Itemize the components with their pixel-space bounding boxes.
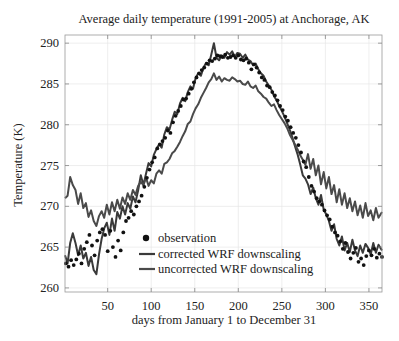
x-tick-labels: 50100150200250300350 <box>101 299 378 313</box>
observation-point <box>127 216 131 220</box>
y-tick-label: 265 <box>40 240 59 254</box>
observation-point <box>135 204 139 208</box>
temperature-chart: Average daily temperature (1991-2005) at… <box>0 0 399 341</box>
observation-point <box>320 203 324 207</box>
observation-point <box>297 143 301 147</box>
observation-point <box>64 262 68 266</box>
y-tick-label: 275 <box>40 159 59 173</box>
observation-point <box>333 231 337 235</box>
observation-point <box>153 156 157 160</box>
observation-point <box>289 125 293 129</box>
observation-point <box>192 80 196 84</box>
observation-point <box>195 76 199 80</box>
observation-point <box>103 233 107 237</box>
observation-point <box>111 245 115 249</box>
observation-point <box>161 139 165 143</box>
observation-point <box>148 168 152 172</box>
observation-point <box>163 136 167 140</box>
observation-point <box>331 225 335 229</box>
observation-point <box>255 66 259 70</box>
observation-point <box>250 67 254 71</box>
observation-point <box>93 253 97 257</box>
legend-observation-label: observation <box>158 231 217 245</box>
x-axis-label: days from January 1 to December 31 <box>132 313 317 327</box>
legend-uncorrected-label: uncorrected WRF downscaling <box>158 262 314 276</box>
x-tick-label: 300 <box>316 299 335 313</box>
observation-point <box>263 78 267 82</box>
observation-point <box>236 54 240 58</box>
observation-point <box>106 249 110 253</box>
observation-point <box>124 219 128 223</box>
observation-point <box>302 160 306 164</box>
observation-point <box>189 87 193 91</box>
observation-point <box>286 119 290 123</box>
y-axis-label: Temperature (K) <box>11 123 25 206</box>
observation-point <box>312 190 316 194</box>
x-tick-label: 200 <box>229 299 248 313</box>
observation-point <box>310 184 314 188</box>
observation-point <box>304 165 308 169</box>
observation-point <box>77 252 81 256</box>
observation-point <box>101 227 105 231</box>
observation-point <box>351 251 355 255</box>
observation-point <box>364 254 368 258</box>
observation-point <box>278 104 282 108</box>
observation-point <box>336 234 340 238</box>
observation-point <box>145 176 149 180</box>
observation-point <box>121 231 125 235</box>
observation-point <box>341 247 345 251</box>
x-tick-label: 250 <box>272 299 291 313</box>
observation-point <box>328 218 332 222</box>
observation-point <box>72 263 76 267</box>
observation-point <box>108 229 112 233</box>
series-layer <box>64 43 384 274</box>
y-tick-labels: 260265270275280285290 <box>40 36 59 295</box>
observation-point <box>129 209 133 213</box>
observation-point <box>362 263 366 267</box>
observation-point <box>171 120 175 124</box>
y-tick-label: 280 <box>40 118 59 132</box>
observation-point <box>142 185 146 189</box>
observation-point <box>281 108 285 112</box>
observation-point <box>252 63 256 67</box>
observation-point <box>187 92 191 96</box>
observation-point <box>202 66 206 70</box>
observation-point <box>315 196 319 200</box>
observation-point <box>291 131 295 135</box>
observation-point <box>294 136 298 140</box>
observation-point <box>354 246 358 250</box>
series-points-observation <box>64 53 384 269</box>
observation-point <box>257 71 261 75</box>
observation-point <box>140 194 144 198</box>
observation-point <box>378 252 382 256</box>
x-tick-label: 350 <box>360 299 379 313</box>
observation-point <box>317 200 321 204</box>
observation-point <box>67 265 71 269</box>
observation-point <box>158 142 162 146</box>
observation-point <box>307 175 311 179</box>
chart-title: Average daily temperature (1991-2005) at… <box>79 12 370 26</box>
observation-point <box>150 160 154 164</box>
series-line-uncorrected-wrf-downscaling <box>65 73 382 226</box>
observation-point <box>116 239 120 243</box>
observation-point <box>276 98 280 102</box>
observation-point <box>344 241 348 245</box>
observation-point <box>98 231 102 235</box>
observation-point <box>88 233 92 237</box>
observation-point <box>323 209 327 213</box>
legend-corrected-label: corrected WRF downscaling <box>158 247 302 261</box>
x-tick-label: 50 <box>101 299 114 313</box>
observation-point <box>74 258 78 262</box>
observation-point <box>184 97 188 101</box>
observation-point <box>283 115 287 119</box>
observation-point <box>338 240 342 244</box>
observation-point <box>375 256 379 260</box>
observation-point <box>370 253 374 257</box>
observation-point <box>95 239 99 243</box>
observation-point <box>299 151 303 155</box>
observation-point <box>359 257 363 261</box>
observation-point <box>80 262 84 266</box>
observation-point <box>69 258 73 262</box>
observation-point <box>349 257 353 261</box>
observation-point <box>270 90 274 94</box>
